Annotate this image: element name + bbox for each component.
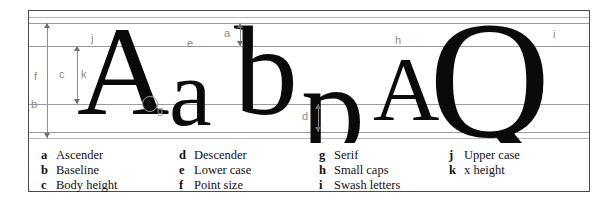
callout-d-descender: d (302, 111, 308, 122)
legend-item: i Swash letters (319, 178, 400, 193)
legend-key: k (449, 163, 461, 178)
legend-item: d Descender (179, 148, 251, 163)
figure-frame: A a b p A Q f c k b a d j e (28, 10, 590, 192)
legend-key: h (319, 163, 331, 178)
guide-line-x-height (29, 46, 589, 47)
legend-key: g (319, 148, 331, 163)
callout-i-swash-letters: i (553, 29, 555, 40)
guide-line-descender (29, 132, 589, 133)
legend-item: j Upper case (449, 148, 520, 163)
legend-item: k x height (449, 163, 520, 178)
guide-line-baseline (29, 104, 589, 105)
arrowhead-x-height-top (74, 46, 80, 51)
legend-key: i (319, 178, 331, 193)
serif-highlight-circle (142, 96, 158, 112)
glyph-lower-case-p: p (301, 45, 365, 143)
glyph-lower-case-a: a (169, 45, 212, 141)
legend-label: Upper case (461, 148, 520, 163)
glyph-lower-case-b: b (234, 11, 298, 135)
legend-item: h Small caps (319, 163, 400, 178)
legend-label: Baseline (53, 163, 99, 178)
arrowhead-point-size-top (44, 23, 50, 28)
legend-item: e Lower case (179, 163, 251, 178)
glyph-swash-q: Q (429, 11, 550, 143)
glyph-small-caps-a: A (373, 43, 439, 135)
arrowhead-descender-bottom (315, 127, 321, 132)
legend-label: Ascender (53, 148, 103, 163)
legend-column-3: g Serif h Small caps i Swash letters (319, 148, 400, 193)
guide-line-ascender (29, 23, 589, 24)
arrowhead-ascender-top (237, 23, 243, 28)
measure-line-point-size (47, 23, 48, 138)
legend-label: Small caps (331, 163, 389, 178)
arrowhead-ascender-bottom (237, 41, 243, 46)
legend-key: j (449, 148, 461, 163)
callout-b-baseline: b (31, 99, 37, 110)
arrowhead-x-height-bottom (74, 99, 80, 104)
callout-c-body-height: c (59, 69, 65, 80)
callout-a-ascender: a (224, 28, 230, 39)
type-anatomy-diagram: A a b p A Q f c k b a d j e (29, 11, 589, 143)
legend-key: e (179, 163, 191, 178)
legend-column-2: d Descender e Lower case f Point size (179, 148, 251, 193)
legend-item: g Serif (319, 148, 400, 163)
glyph-upper-case-a: A (77, 11, 169, 135)
callout-f-point-size: f (34, 71, 37, 82)
callout-e-lower-case: e (187, 38, 193, 49)
callout-j-upper-case: j (91, 33, 93, 44)
specimen-glyph-row: A a b p A Q (29, 11, 589, 143)
arrowhead-descender-top (315, 104, 321, 109)
legend-key: a (41, 148, 53, 163)
legend-label: Serif (331, 148, 358, 163)
legend-item: f Point size (179, 178, 251, 193)
legend-item: b Baseline (41, 163, 117, 178)
legend-label: x height (461, 163, 505, 178)
legend-key: d (179, 148, 191, 163)
legend-label: Lower case (191, 163, 251, 178)
legend: a Ascender b Baseline c Body height d De… (29, 143, 589, 193)
legend-column-4: j Upper case k x height (449, 148, 520, 178)
legend-label: Point size (191, 178, 243, 193)
guide-line-top (29, 17, 589, 18)
legend-label: Body height (53, 178, 117, 193)
legend-label: Swash letters (331, 178, 400, 193)
legend-key: f (179, 178, 191, 193)
legend-key: c (41, 178, 53, 193)
callout-g-serif: g (157, 105, 163, 116)
measure-line-x-height (77, 46, 78, 104)
legend-label: Descender (191, 148, 247, 163)
legend-key: b (41, 163, 53, 178)
arrowhead-point-size-bottom (44, 133, 50, 138)
callout-h-small-caps: h (395, 35, 401, 46)
legend-item: a Ascender (41, 148, 117, 163)
legend-column-1: a Ascender b Baseline c Body height (41, 148, 117, 193)
callout-k-x-height: k (81, 69, 87, 80)
guide-line-bottom (29, 138, 589, 139)
legend-item: c Body height (41, 178, 117, 193)
